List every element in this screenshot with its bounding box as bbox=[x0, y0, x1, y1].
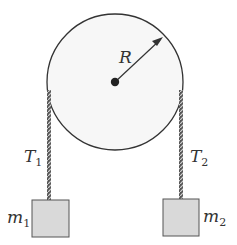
radius-label: R bbox=[118, 47, 132, 67]
mass-box-m1 bbox=[32, 200, 69, 237]
pulley-axle bbox=[111, 78, 119, 86]
pulley-diagram: R T1 T2 m1 m2 bbox=[0, 0, 237, 245]
mass-label-m2: m2 bbox=[203, 206, 226, 229]
tension-label-t1: T1 bbox=[24, 146, 42, 169]
mass-box-m2 bbox=[163, 199, 199, 236]
rope-left bbox=[47, 90, 51, 200]
mass-label-m1: m1 bbox=[7, 207, 30, 230]
tension-label-t2: T2 bbox=[190, 146, 208, 169]
rope-right bbox=[179, 90, 183, 199]
